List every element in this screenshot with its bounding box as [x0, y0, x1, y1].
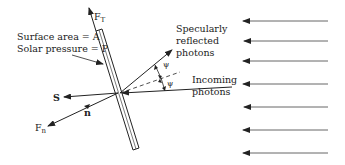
psi-top-label: ψ — [163, 59, 169, 70]
solar-pressure-label: Solar pressure = P — [17, 43, 108, 54]
incoming-label-line2: photons — [192, 86, 230, 97]
ft-main: F — [94, 11, 101, 22]
fn-label: Fn — [35, 122, 46, 137]
incoming-label-line1: Incoming — [192, 74, 237, 85]
incoming-photon-arrows — [243, 21, 328, 153]
specular-label-line2: reflected — [176, 35, 219, 46]
ft-sub: T — [101, 16, 106, 24]
specular-label-line1: Specularly — [176, 23, 227, 34]
fn-sub: n — [42, 127, 47, 135]
specular-label-line3: photons — [176, 47, 214, 58]
ft-label: FT — [94, 11, 105, 26]
label-pointer — [72, 55, 103, 64]
fn-main: F — [35, 122, 42, 133]
s-label: S — [53, 92, 60, 103]
n-label: n — [84, 107, 91, 118]
surface-area-label: Surface area = A — [17, 31, 100, 42]
psi-bottom-label: ψ — [167, 78, 173, 89]
